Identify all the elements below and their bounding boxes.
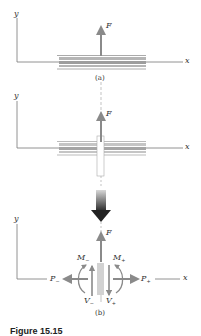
axial-label-left: P− [50, 275, 60, 284]
force-label-mid: F [106, 110, 112, 118]
plate-stack-a [57, 56, 146, 70]
element-section [97, 263, 104, 295]
caption-a: (a) [95, 75, 105, 82]
x-axis-label-mid: x [185, 143, 190, 151]
y-axis-label-mid: y [14, 92, 19, 100]
y-axis-label-a: y [14, 10, 19, 18]
x-axis-label-a: x [185, 57, 190, 65]
panel-mid [17, 101, 183, 186]
big-down-arrow-icon [91, 190, 111, 222]
shear-label-left: V− [84, 297, 94, 306]
force-label-b: F [106, 229, 112, 237]
moment-label-left: M− [77, 254, 89, 263]
axial-label-right: P+ [141, 275, 151, 284]
x-axis-label-b: x [183, 274, 188, 282]
figure-caption: Figure 15.15 [10, 326, 63, 336]
force-label-a: F [106, 22, 112, 30]
panel-b [17, 224, 180, 302]
caption-b: (b) [95, 310, 105, 317]
moment-label-right: M+ [113, 254, 125, 263]
y-axis-label-b: y [14, 215, 19, 223]
shear-label-right: V+ [106, 297, 116, 306]
panel-a [17, 18, 183, 69]
